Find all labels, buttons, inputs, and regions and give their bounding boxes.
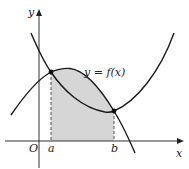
curve-label: y = f(x) — [83, 66, 125, 79]
area-between-curves-diagram: y x O a b y = f(x) — [0, 0, 189, 169]
x-axis-arrow-icon — [177, 138, 184, 144]
b-label: b — [111, 142, 118, 155]
intersection-point-a — [49, 70, 54, 75]
x-axis-label: x — [176, 147, 183, 160]
y-axis-arrow-icon — [36, 9, 42, 16]
intersection-point-b — [112, 109, 117, 114]
origin-label: O — [29, 142, 38, 155]
a-label: a — [48, 142, 55, 155]
y-axis-label: y — [27, 6, 35, 19]
shaded-region — [51, 68, 114, 141]
